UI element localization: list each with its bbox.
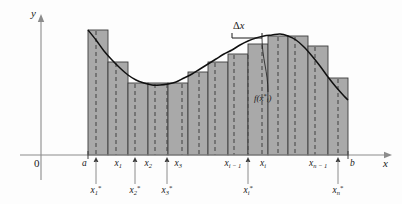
sample-point-label-xi*: xi* [244, 185, 253, 196]
riemann-sum-figure: y x 0 Δx f(x*i) ax1x2x3xi − 1xixn − 1b x… [0, 0, 402, 204]
partition-label-xi-1: xi − 1 [225, 159, 242, 169]
sample-point-label-x3*: x3* [162, 185, 173, 196]
function-value-open: f(x [254, 93, 264, 103]
riemann-rectangle [288, 36, 308, 155]
figure-canvas [0, 0, 402, 204]
sample-star: * [250, 184, 253, 191]
partition-label-x3: x3 [175, 159, 182, 169]
partition-label-xn-1: xn − 1 [309, 159, 327, 169]
partition-subscript: 3 [179, 162, 182, 169]
partition-subscript: i [264, 162, 266, 169]
x-axis-label: x [383, 158, 388, 169]
partition-base: b [350, 158, 355, 168]
partition-subscript: n − 1 [313, 162, 327, 169]
riemann-rectangle [148, 83, 168, 155]
sample-star: * [137, 184, 140, 191]
sample-star: * [98, 184, 101, 191]
partition-label-a: a [82, 159, 87, 169]
riemann-rectangle [188, 72, 208, 155]
partition-label-x2: x2 [145, 159, 152, 169]
partition-subscript: i − 1 [229, 162, 242, 169]
function-value-close: ) [268, 93, 271, 103]
partition-label-b: b [350, 159, 355, 169]
partition-subscript: 2 [149, 162, 152, 169]
riemann-rectangles [88, 30, 348, 155]
y-axis-arrow [38, 14, 44, 22]
partition-label-x1: x1 [115, 159, 122, 169]
sample-star: * [340, 184, 343, 191]
origin-label: 0 [34, 158, 40, 169]
partition-subscript: 1 [119, 162, 122, 169]
riemann-rectangle [88, 30, 108, 155]
riemann-rectangle [128, 83, 148, 155]
riemann-rectangle [228, 54, 248, 155]
function-value-label: f(x*i) [254, 93, 271, 104]
y-axis-label: y [31, 8, 36, 19]
riemann-rectangle [108, 62, 128, 155]
delta-symbol: Δ [233, 20, 240, 31]
riemann-rectangle [208, 62, 228, 155]
partition-base: a [82, 158, 87, 168]
delta-x-label: Δx [233, 21, 244, 32]
sample-star: * [169, 184, 172, 191]
partition-label-xi: xi [260, 159, 266, 169]
sample-point-label-x1*: x1* [91, 185, 102, 196]
sample-point-pointers [94, 157, 341, 184]
riemann-rectangle [168, 83, 188, 155]
delta-x-variable: x [240, 20, 245, 31]
sample-point-label-x2*: x2* [130, 185, 141, 196]
sample-point-label-xn*: xn* [333, 185, 344, 196]
